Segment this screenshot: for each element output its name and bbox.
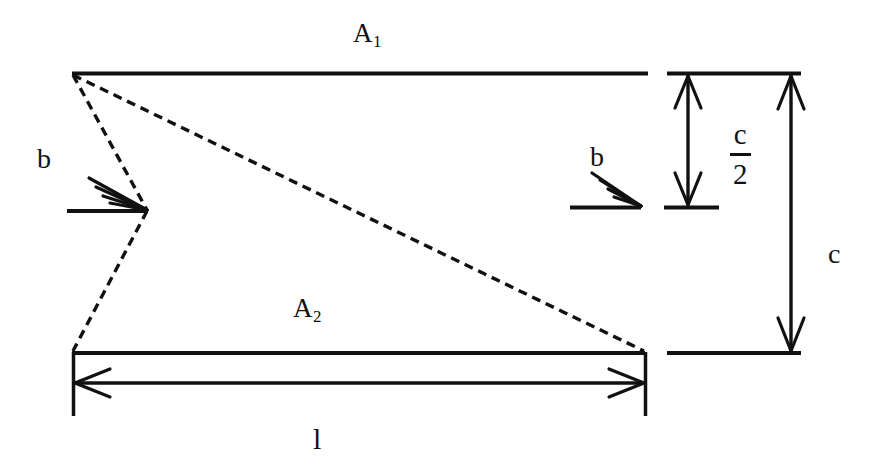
label-length: l — [313, 424, 321, 454]
label-area-bottom: A2 — [293, 295, 322, 325]
label-area-top-subscript: 1 — [373, 32, 382, 51]
notch-lower-construction-line — [73, 211, 147, 351]
label-area-top: A1 — [353, 20, 382, 50]
total-depth-dimension — [778, 76, 804, 351]
diagonal-construction-line — [73, 75, 644, 351]
right-thickness-arrowhead — [592, 173, 641, 206]
length-dimension — [75, 369, 644, 397]
fraction-bar — [730, 153, 751, 156]
diagram-vector-layer — [0, 0, 888, 471]
label-area-bottom-subscript: 2 — [313, 307, 322, 326]
half-depth-dimension — [675, 76, 701, 205]
label-depth-total: c — [828, 240, 840, 268]
label-thickness-right: b — [590, 143, 604, 171]
label-thickness-left: b — [37, 145, 51, 173]
label-half-depth-numerator: c — [730, 120, 751, 152]
label-half-depth-fraction: c 2 — [730, 120, 751, 189]
label-area-top-base: A — [353, 18, 373, 48]
label-area-bottom-base: A — [293, 293, 313, 323]
label-half-depth-denominator: 2 — [730, 159, 751, 189]
diagram-canvas: A1 A2 b b c 2 c l — [0, 0, 888, 471]
